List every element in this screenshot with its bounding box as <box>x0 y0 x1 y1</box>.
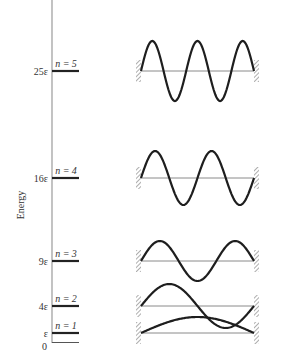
right-wall-icon <box>254 167 259 189</box>
left-wall-icon <box>136 60 141 82</box>
energy-label-n2: 4ε <box>39 301 48 312</box>
axis-title-energy: Energy <box>15 191 26 220</box>
energy-levels: εn = 14εn = 29εn = 316εn = 425εn = 5 <box>34 58 79 339</box>
right-wall-icon <box>254 322 259 344</box>
right-wall-icon <box>254 60 259 82</box>
right-wall-icon <box>254 250 259 272</box>
left-wall-icon <box>136 295 141 317</box>
left-wall-icon <box>136 322 141 344</box>
energy-label-n4: 16ε <box>34 173 48 184</box>
left-wall-icon <box>136 250 141 272</box>
energy-label-n5: 25ε <box>34 66 48 77</box>
quantum-number-label-n1: n = 1 <box>55 320 77 331</box>
energy-label-n1: ε <box>44 328 48 339</box>
quantum-number-label-n4: n = 4 <box>55 165 77 176</box>
right-wall-icon <box>254 295 259 317</box>
zero-label: 0 <box>42 341 47 352</box>
energy-label-n3: 9ε <box>39 256 48 267</box>
quantum-number-label-n2: n = 2 <box>55 293 77 304</box>
quantum-number-label-n5: n = 5 <box>55 58 77 69</box>
left-wall-icon <box>136 167 141 189</box>
quantum-number-label-n3: n = 3 <box>55 248 77 259</box>
standing-waves <box>136 41 259 344</box>
energy-level-diagram: 0 Energy εn = 14εn = 29εn = 316εn = 425ε… <box>0 0 285 363</box>
